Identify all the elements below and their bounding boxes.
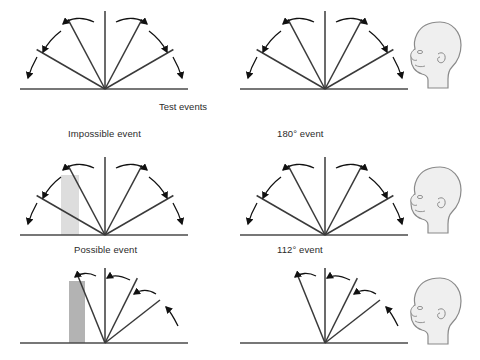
panel-possible-event (8, 262, 208, 350)
head-outline (411, 167, 461, 233)
fan-lines (297, 268, 380, 343)
drawbridge-diagram-habituation-left (8, 4, 208, 96)
fan-lines (77, 268, 160, 343)
infant-head-profile-icon (406, 18, 466, 92)
fan-lines (37, 157, 174, 235)
panel-label-impossible-event: Impossible event (68, 128, 141, 139)
panel-impossible-event (8, 152, 208, 242)
drawbridge-diagram-habituation-right (238, 4, 423, 96)
fan-lines (257, 11, 394, 89)
occluder-box-opaque (69, 281, 85, 343)
infant-head-row-1 (406, 163, 466, 241)
panel-habituation-right (238, 4, 423, 96)
panel-label-180-degree-event: 180° event (277, 128, 324, 139)
infant-head-row-2 (406, 274, 466, 352)
head-outline (411, 22, 461, 88)
infant-head-profile-icon (406, 163, 466, 237)
fan-lines (257, 157, 394, 235)
infant-head-profile-icon (406, 274, 466, 348)
occluder-box-translucent (61, 175, 79, 235)
infant-head-row-0 (406, 18, 466, 96)
head-outline (411, 278, 461, 344)
drawbridge-diagram-180-degree-event (238, 152, 423, 242)
panel-label-112-degree-event: 112° event (277, 244, 323, 255)
figure-root: Test events Impossible event 180° event (0, 0, 480, 360)
drawbridge-diagram-possible-event (8, 262, 208, 350)
panel-180-degree-event (238, 152, 423, 242)
panel-label-possible-event: Possible event (74, 244, 137, 255)
panel-112-degree-event (238, 262, 423, 350)
panel-habituation-left (8, 4, 208, 96)
drawbridge-diagram-112-degree-event (238, 262, 423, 350)
drawbridge-diagram-impossible-event (8, 152, 208, 242)
fan-lines (37, 11, 174, 89)
test-events-label: Test events (159, 101, 207, 112)
